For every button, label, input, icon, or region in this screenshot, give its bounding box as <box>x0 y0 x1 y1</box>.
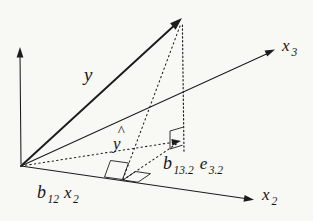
y-vector-label: y <box>82 64 93 85</box>
b12-subscript: 12 <box>48 193 60 205</box>
vector-projection-diagram: y ^ y x3 x2 b12x2 b13.2e3.2 <box>0 0 313 221</box>
e32-letter: e <box>200 154 208 173</box>
x3-label-main: x <box>281 36 290 55</box>
b13-subscript: 13.2 <box>174 164 194 176</box>
b12-coefficient: b <box>37 182 46 202</box>
x3-label-sub: 3 <box>291 46 298 58</box>
y-hat-label-letter: y <box>111 134 121 153</box>
diagram-canvas: y ^ y x3 x2 b12x2 b13.2e3.2 <box>0 0 313 221</box>
b12-x: x <box>63 183 72 202</box>
x2-label-main: x <box>261 185 270 204</box>
x2-label-sub: 2 <box>272 195 278 207</box>
b12-x-subscript: 2 <box>73 193 79 205</box>
e32-subscript: 3.2 <box>208 164 224 176</box>
b13-coefficient: b <box>163 153 172 173</box>
